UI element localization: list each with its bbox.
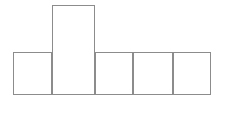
net-face-left-square: [14, 53, 52, 95]
net-face-third-cell: [134, 53, 173, 95]
net-face-fourth-cell: [174, 53, 211, 95]
net-face-second-cell: [96, 53, 133, 95]
figure-canvas: [0, 0, 226, 124]
net-diagram: [0, 0, 226, 124]
net-face-tall-upper-rectangle: [53, 6, 95, 95]
